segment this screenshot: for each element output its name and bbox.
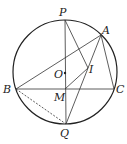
label-I: I xyxy=(88,63,94,76)
center-dot-O xyxy=(64,72,66,74)
label-P: P xyxy=(58,6,67,19)
diagram-canvas: P A B C O I M Q xyxy=(0,0,127,144)
label-M: M xyxy=(53,91,66,104)
segment-PI xyxy=(65,20,88,68)
label-C: C xyxy=(116,83,125,96)
label-Q: Q xyxy=(60,127,69,140)
segment-AQ xyxy=(66,35,101,124)
label-B: B xyxy=(2,83,11,96)
label-O: O xyxy=(54,68,63,81)
geometry-diagram: P A B C O I M Q xyxy=(0,0,127,144)
segment-AC xyxy=(101,35,114,89)
label-A: A xyxy=(101,24,110,37)
segment-MI xyxy=(65,68,88,89)
